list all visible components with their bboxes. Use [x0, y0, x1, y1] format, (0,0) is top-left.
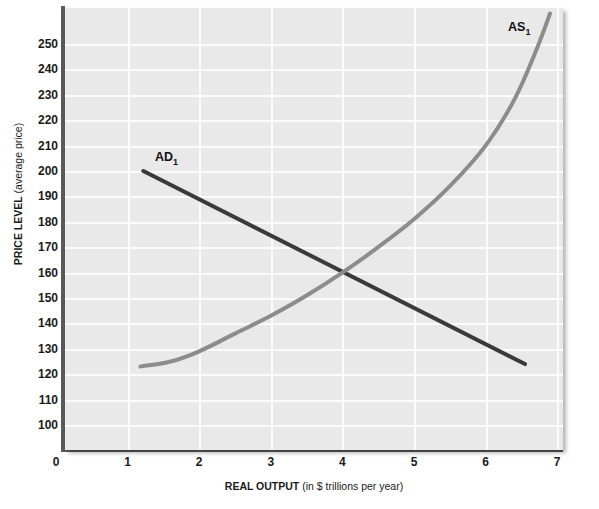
curves-layer: [0, 0, 599, 509]
curve-label-ad: AD1: [155, 150, 178, 167]
curve-label-as-subscript: 1: [525, 27, 530, 37]
curve-as1: [141, 14, 551, 367]
curve-label-as-text: AS: [508, 20, 525, 34]
curve-label-as: AS1: [508, 20, 530, 37]
curve-label-ad-subscript: 1: [173, 157, 178, 167]
chart-figure: 1001101201301401501601701801902002102202…: [0, 0, 599, 509]
curve-ad1: [143, 171, 525, 364]
curve-label-ad-text: AD: [155, 150, 173, 164]
